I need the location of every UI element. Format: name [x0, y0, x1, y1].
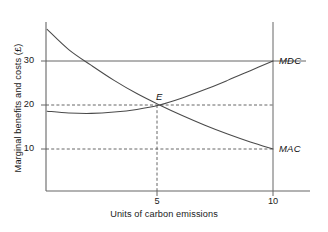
mac-curve-label: MAC [279, 143, 301, 154]
x-tick-label-10: 10 [260, 196, 286, 206]
y-axis-title: Marginal benefits and costs (£) [13, 23, 23, 193]
x-axis-title: Units of carbon emissions [0, 209, 328, 219]
x-tick-label-5: 5 [144, 196, 170, 206]
mdc-curve-label: MDC [279, 55, 301, 66]
chart-figure: 30 20 10 5 10 Units of carbon emissions … [0, 0, 328, 232]
equilibrium-point-label: E [156, 91, 162, 102]
mac-curve [47, 29, 273, 149]
